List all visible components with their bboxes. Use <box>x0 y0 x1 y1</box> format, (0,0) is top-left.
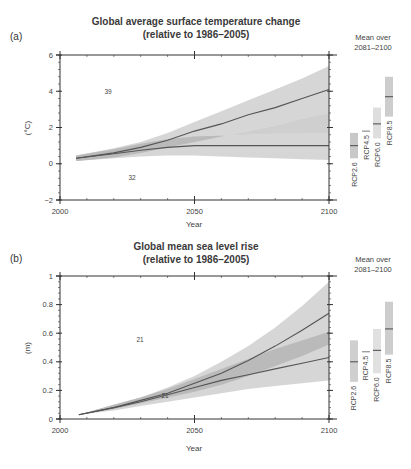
figure: (a) Global average surface temperature c… <box>0 0 411 469</box>
x-tick-label: 2100 <box>321 207 338 216</box>
mean-bar-rcp85: RCP8.5 <box>385 302 393 383</box>
y-tick-label: 0.6 <box>43 329 53 338</box>
panel-a-temperature-chart: (a) Global average surface temperature c… <box>10 16 393 229</box>
panel-label-a: (a) <box>10 31 22 42</box>
y-tick-label: 0.4 <box>43 357 53 366</box>
mean-bar-rcp60: RCP6.0 <box>373 329 381 402</box>
y-tick-label: 2 <box>49 123 53 132</box>
y-tick-label: 4 <box>49 87 53 96</box>
mean-bars-b: RCP2.6RCP4.5RCP6.0RCP8.5 <box>350 302 393 411</box>
mean-bar-rcp60: RCP6.0 <box>373 108 381 167</box>
y-axis-label-a: (°C) <box>23 121 32 136</box>
model-count-label: 32 <box>128 174 136 181</box>
legend-title-b-line1: Mean over <box>355 255 391 264</box>
y-tick-label: −2 <box>44 196 53 205</box>
legend-title-b-line2: 2081–2100 <box>354 265 392 274</box>
y-tick-label: 0 <box>49 159 53 168</box>
x-tick-label: 2100 <box>321 426 338 435</box>
x-tick-label: 2050 <box>186 207 203 216</box>
plot-area-b: 2121 <box>79 282 329 415</box>
mean-bar-rcp85: RCP8.5 <box>385 77 393 145</box>
plot-area-a: 3932 <box>76 66 329 181</box>
mean-bar-rcp45: RCP4.5 <box>362 352 370 381</box>
panel-label-b: (b) <box>10 253 22 264</box>
chart-title-a: Global average surface temperature chang… <box>92 16 301 27</box>
model-count-label: 21 <box>161 392 169 399</box>
rcp-label: RCP2.6 <box>351 162 358 187</box>
rcp-label: RCP6.0 <box>374 377 381 402</box>
legend-title-a-line2: 2081–2100 <box>354 43 392 52</box>
model-count-label: 39 <box>104 88 112 95</box>
rcp-label: RCP2.6 <box>351 386 358 411</box>
x-tick-label: 2050 <box>186 426 203 435</box>
chart-title-b: Global mean sea level rise <box>133 241 259 252</box>
rcp-label: RCP4.5 <box>363 135 370 160</box>
rcp-label: RCP6.0 <box>374 142 381 167</box>
model-count-label: 21 <box>136 336 144 343</box>
x-tick-label: 2000 <box>52 426 69 435</box>
y-tick-label: 1 <box>49 272 53 281</box>
x-axis-label-a: Year <box>186 220 203 229</box>
mean-bar-rcp26: RCP2.6 <box>350 133 358 187</box>
mean-bars-a: RCP2.6RCP4.5RCP6.0RCP8.5 <box>350 77 393 187</box>
panel-b-sea-level-chart: (b) Global mean sea level rise (relative… <box>10 241 393 453</box>
y-axis-label-b: (m) <box>23 342 32 354</box>
rcp-label: RCP4.5 <box>363 356 370 381</box>
mean-bar-rcp45: RCP4.5 <box>362 131 370 160</box>
chart-subtitle-a: (relative to 1986–2005) <box>143 29 250 40</box>
y-tick-label: 6 <box>49 51 53 60</box>
x-axis-label-b: Year <box>186 444 203 453</box>
y-tick-label: 0.8 <box>43 300 53 309</box>
y-tick-label: 0.2 <box>43 386 53 395</box>
rcp-label: RCP8.5 <box>386 121 393 146</box>
mean-bar-rcp26: RCP2.6 <box>350 340 358 410</box>
rcp-label: RCP8.5 <box>386 359 393 384</box>
chart-subtitle-b: (relative to 1986–2005) <box>143 254 250 265</box>
x-tick-label: 2000 <box>52 207 69 216</box>
legend-title-a-line1: Mean over <box>355 33 391 42</box>
y-tick-label: 0 <box>49 415 53 424</box>
